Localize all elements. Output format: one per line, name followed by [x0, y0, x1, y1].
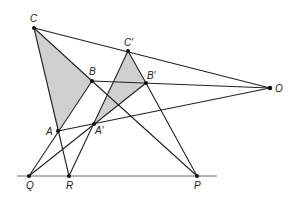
- triangle-a-prime-b-prime-c-prime: [94, 51, 146, 124]
- label-c: C: [30, 13, 38, 24]
- label-a: A: [45, 126, 53, 137]
- point-b: [90, 79, 94, 83]
- label-q: Q: [26, 180, 34, 191]
- point-q: [27, 174, 31, 178]
- point-a: [56, 129, 60, 133]
- triangle-abc: [34, 28, 92, 131]
- point-p: [195, 174, 199, 178]
- label-a-prime: A′: [94, 125, 105, 136]
- point-r: [67, 174, 71, 178]
- label-r: R: [66, 180, 73, 191]
- label-c-prime: C′: [124, 37, 134, 48]
- point-o: [268, 86, 273, 91]
- label-p: P: [194, 180, 201, 191]
- desargues-diagram: C B A C′ B′ A′ O Q R P: [0, 0, 293, 201]
- label-b-prime: B′: [147, 70, 157, 81]
- side-b-prime-c-prime-extended: [146, 83, 197, 176]
- point-c: [32, 26, 36, 30]
- point-c-prime: [126, 49, 130, 53]
- side-bc-extended: [92, 81, 197, 176]
- line-o-a: [58, 88, 270, 131]
- point-b-prime: [144, 81, 148, 85]
- label-o: O: [275, 83, 283, 94]
- label-b: B: [89, 66, 96, 77]
